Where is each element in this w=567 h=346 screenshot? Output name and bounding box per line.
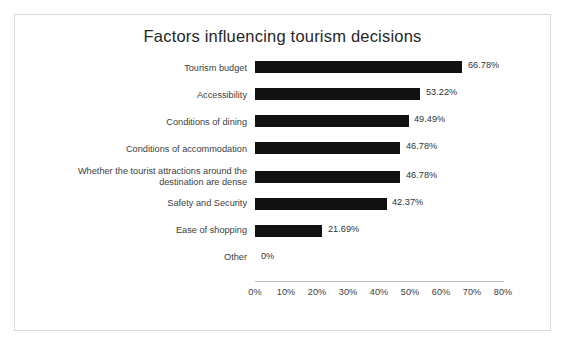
- category-label: Whether the tourist attractions around t…: [35, 166, 247, 188]
- category-label: Accessibility: [35, 90, 247, 101]
- x-tick-label: 60%: [432, 287, 450, 297]
- x-tick-label: 80%: [494, 287, 512, 297]
- bars-area: 66.78% 53.22% 49.49% 46.78% 46.78% 42.37…: [255, 61, 503, 281]
- category-axis-labels: Tourism budget Accessibility Conditions …: [25, 61, 247, 281]
- chart-card: Factors influencing tourism decisions To…: [14, 14, 551, 331]
- x-axis-line: [255, 281, 504, 282]
- x-tick-label: 50%: [401, 287, 419, 297]
- x-axis-tick-labels: 0% 10% 20% 30% 40% 50% 60% 70% 80%: [255, 287, 504, 307]
- bar[interactable]: [255, 142, 400, 154]
- bar-value-label: 42.37%: [392, 197, 423, 207]
- plot-area: Tourism budget Accessibility Conditions …: [15, 61, 552, 323]
- category-label: Ease of shopping: [35, 225, 247, 236]
- x-tick-label: 20%: [308, 287, 326, 297]
- bar-value-label: 46.78%: [406, 170, 437, 180]
- bar-value-label: 66.78%: [468, 60, 499, 70]
- bar-value-label: 49.49%: [414, 114, 445, 124]
- chart-title: Factors influencing tourism decisions: [15, 27, 550, 46]
- x-tick-label: 70%: [463, 287, 481, 297]
- x-tick-label: 30%: [339, 287, 357, 297]
- x-tick-label: 10%: [277, 287, 295, 297]
- bar[interactable]: [255, 61, 462, 73]
- category-label: Other: [35, 252, 247, 263]
- category-label: Conditions of dining: [35, 117, 247, 128]
- bar-value-label: 46.78%: [406, 141, 437, 151]
- bar[interactable]: [255, 88, 420, 100]
- bar-value-label: 0%: [261, 251, 274, 261]
- category-label: Conditions of accommodation: [35, 144, 247, 155]
- bar[interactable]: [255, 115, 409, 127]
- bar-value-label: 53.22%: [426, 87, 457, 97]
- bar[interactable]: [255, 225, 322, 237]
- category-label: Safety and Security: [35, 198, 247, 209]
- bar[interactable]: [255, 198, 387, 210]
- bar-value-label: 21.69%: [328, 224, 359, 234]
- bar[interactable]: [255, 171, 400, 183]
- x-tick-label: 0%: [248, 287, 261, 297]
- x-tick-label: 40%: [370, 287, 388, 297]
- category-label: Tourism budget: [35, 63, 247, 74]
